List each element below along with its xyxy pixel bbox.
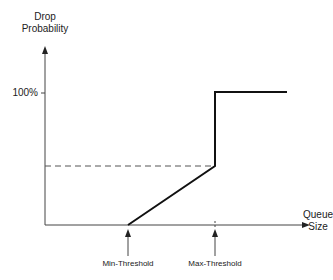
- y-axis-label-line2: Probability: [10, 23, 80, 35]
- min-threshold-arrow-icon: [125, 229, 131, 237]
- drop-probability-curve: [128, 92, 287, 225]
- y-tick-label-100: 100%: [8, 87, 38, 99]
- x-axis-label-line2: Size: [303, 221, 333, 233]
- max-threshold-label: Max-Threshold: [175, 258, 255, 270]
- x-axis-label-line1: Queue: [303, 209, 333, 221]
- max-threshold-arrow-icon: [212, 229, 218, 237]
- y-axis-label: Drop Probability: [10, 11, 80, 35]
- diagram-canvas: [0, 0, 333, 280]
- y-axis-arrow-icon: [42, 46, 48, 54]
- y-axis-label-line1: Drop: [10, 11, 80, 23]
- x-axis-label: Queue Size: [303, 209, 333, 233]
- min-threshold-label: Min-Threshold: [88, 258, 168, 270]
